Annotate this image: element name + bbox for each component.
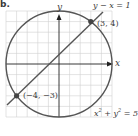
y-axis-label: y	[57, 3, 62, 12]
y-axis-arrow-icon	[57, 14, 62, 20]
y-axis	[57, 14, 62, 117]
problem-label: b.	[0, 0, 10, 9]
point-label-2: (−4, −3)	[23, 92, 58, 100]
x-axis-label: x	[115, 59, 120, 68]
line-equation: y − x = 1	[93, 2, 131, 10]
intersection-point-1	[88, 19, 93, 24]
circle-equation: x2 + y2 = 5	[94, 108, 138, 118]
x-axis	[6, 62, 113, 67]
intersection-point-2	[14, 93, 19, 98]
point-label-1: (3, 4)	[97, 20, 119, 28]
